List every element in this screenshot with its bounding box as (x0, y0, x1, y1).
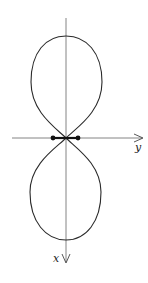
figure-eight-diagram (0, 0, 148, 283)
marked-point-right (76, 136, 81, 141)
marked-point-left (51, 136, 56, 141)
vertical-axis-label: x (53, 253, 59, 264)
lower-lobe (30, 138, 101, 240)
horizontal-axis-label: y (135, 142, 141, 153)
upper-lobe (31, 36, 102, 138)
